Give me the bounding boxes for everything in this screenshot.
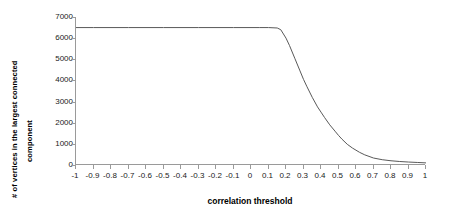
y-axis-tick-label: 0	[39, 161, 73, 169]
chart-container: # of vertices in the largest connected c…	[0, 0, 450, 219]
x-axis-tick-mark	[425, 165, 426, 169]
y-axis-tick-label: 6000	[39, 34, 73, 42]
x-axis-tick-mark	[180, 165, 181, 169]
series-line-largest-component	[76, 28, 426, 163]
series-line-svg	[76, 17, 426, 165]
x-axis-tick-mark	[303, 165, 304, 169]
x-axis-tick-mark	[110, 165, 111, 169]
x-axis-tick-mark	[373, 165, 374, 169]
x-axis-tick-mark	[285, 165, 286, 169]
x-axis-tick-mark	[268, 165, 269, 169]
y-axis-tick-label: 5000	[39, 55, 73, 63]
y-axis-title-line-1: # of vertices in the largest connected	[10, 12, 22, 198]
x-axis-tick-mark	[390, 165, 391, 169]
x-axis-tick-mark	[355, 165, 356, 169]
y-axis-tick-label: 1000	[39, 140, 73, 148]
x-axis-tick-mark	[163, 165, 164, 169]
x-axis-tick-marks	[75, 165, 426, 170]
x-axis-tick-mark	[93, 165, 94, 169]
x-axis-tick-mark	[408, 165, 409, 169]
x-axis-title: correlation threshold	[75, 196, 425, 206]
y-axis-tick-label: 7000	[39, 13, 73, 21]
x-axis-tick-labels: -1-0.9-0.8-0.7-0.6-0.5-0.4-0.3-0.2-0.100…	[75, 171, 426, 183]
x-axis-tick-mark	[198, 165, 199, 169]
x-axis-tick-mark	[338, 165, 339, 169]
x-axis-tick-mark	[128, 165, 129, 169]
y-axis-tick-label: 3000	[39, 98, 73, 106]
y-axis-title-line-2: component	[25, 0, 37, 162]
y-axis-tick-label: 4000	[39, 76, 73, 84]
x-axis-tick-mark	[250, 165, 251, 169]
x-axis-tick-mark	[215, 165, 216, 169]
x-axis-tick-mark	[320, 165, 321, 169]
plot-area	[75, 17, 425, 165]
x-axis-tick-mark	[145, 165, 146, 169]
y-axis-tick-labels: 01000200030004000500060007000	[39, 0, 73, 190]
x-axis-tick-label: 1	[410, 171, 440, 181]
y-axis-tick-label: 2000	[39, 119, 73, 127]
x-axis-tick-mark	[233, 165, 234, 169]
x-axis-tick-mark	[75, 165, 76, 169]
